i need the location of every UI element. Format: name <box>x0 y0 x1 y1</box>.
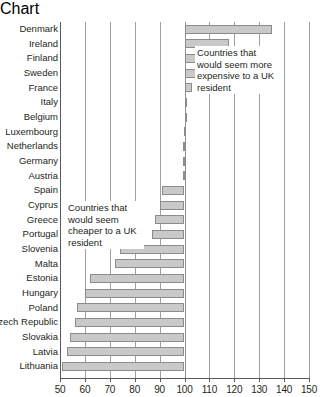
category-label-slovakia: Slovakia <box>0 330 58 345</box>
category-label-latvia: Latvia <box>0 345 58 360</box>
x-tick-60 <box>85 378 86 382</box>
bar-row: Germany <box>0 154 323 169</box>
bar-row: Greece <box>0 213 323 228</box>
bar-france <box>185 83 192 92</box>
category-label-estonia: Estonia <box>0 271 58 286</box>
category-label-cyprus: Cyprus <box>0 198 58 213</box>
annotation-expensive: Countries that would seem more expensive… <box>195 46 277 94</box>
bar-row: Slovenia <box>0 242 323 257</box>
bar-luxembourg <box>184 127 186 136</box>
category-label-belgium: Belgium <box>0 110 58 125</box>
annotation-cheaper: Countries that would seem cheaper to a U… <box>66 201 144 249</box>
bar-row: Lithuania <box>0 359 323 374</box>
bar-austria <box>183 171 185 180</box>
bar-portugal <box>152 230 184 239</box>
bar-row: Latvia <box>0 345 323 360</box>
bar-row: Spain <box>0 183 323 198</box>
x-tick-140 <box>284 378 285 382</box>
category-label-luxembourg: Luxembourg <box>0 125 58 140</box>
bar-row: Italy <box>0 95 323 110</box>
bar-row: Czech Republic <box>0 315 323 330</box>
bar-row: Poland <box>0 301 323 316</box>
category-label-germany: Germany <box>0 154 58 169</box>
bar-estonia <box>90 274 185 283</box>
bar-row: Netherlands <box>0 139 323 154</box>
bar-chart: 5060708090100110120130140150 DenmarkIrel… <box>0 18 323 397</box>
x-tick-110 <box>209 378 210 382</box>
bar-slovakia <box>70 333 185 342</box>
x-tick-80 <box>135 378 136 382</box>
x-tick-90 <box>160 378 161 382</box>
bar-denmark <box>185 25 272 34</box>
x-tick-120 <box>234 378 235 382</box>
category-label-italy: Italy <box>0 95 58 110</box>
bar-row: Denmark <box>0 22 323 37</box>
category-label-ireland: Ireland <box>0 37 58 52</box>
category-label-greece: Greece <box>0 213 58 228</box>
x-tick-150 <box>309 378 310 382</box>
bar-lithuania <box>62 362 184 371</box>
category-label-hungary: Hungary <box>0 286 58 301</box>
bar-row: Estonia <box>0 271 323 286</box>
bar-latvia <box>67 347 184 356</box>
category-label-france: France <box>0 81 58 96</box>
bar-italy <box>185 98 187 107</box>
bar-row: Belgium <box>0 110 323 125</box>
bar-poland <box>77 303 184 312</box>
category-label-sweden: Sweden <box>0 66 58 81</box>
bar-greece <box>155 215 185 224</box>
bar-cyprus <box>160 201 185 210</box>
category-label-finland: Finland <box>0 51 58 66</box>
bar-row: Malta <box>0 257 323 272</box>
bar-hungary <box>85 289 185 298</box>
x-tick-70 <box>110 378 111 382</box>
category-label-netherlands: Netherlands <box>0 139 58 154</box>
bar-row: Luxembourg <box>0 125 323 140</box>
category-label-austria: Austria <box>0 169 58 184</box>
category-label-poland: Poland <box>0 301 58 316</box>
category-label-czech-republic: Czech Republic <box>0 315 58 330</box>
category-label-slovenia: Slovenia <box>0 242 58 257</box>
bar-row: Portugal <box>0 227 323 242</box>
category-label-denmark: Denmark <box>0 22 58 37</box>
x-tick-label-150: 150 <box>294 384 323 395</box>
bar-row: Hungary <box>0 286 323 301</box>
bar-germany <box>183 157 185 166</box>
bar-row: Cyprus <box>0 198 323 213</box>
x-tick-50 <box>60 378 61 382</box>
bar-row: Austria <box>0 169 323 184</box>
category-label-portugal: Portugal <box>0 227 58 242</box>
bar-belgium <box>185 113 187 122</box>
category-label-malta: Malta <box>0 257 58 272</box>
category-label-spain: Spain <box>0 183 58 198</box>
bar-netherlands <box>183 142 185 151</box>
bar-czech-republic <box>75 318 185 327</box>
bar-malta <box>115 259 185 268</box>
bar-spain <box>162 186 184 195</box>
category-label-lithuania: Lithuania <box>0 359 58 374</box>
bar-row: Slovakia <box>0 330 323 345</box>
x-tick-100 <box>185 378 186 382</box>
x-tick-130 <box>259 378 260 382</box>
